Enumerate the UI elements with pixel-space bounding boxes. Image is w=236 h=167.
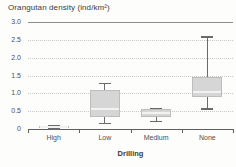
whisker-cap-high-none xyxy=(201,36,213,38)
category-label-medium: Medium xyxy=(131,134,181,142)
y-tick-label-2.5: 2.5 xyxy=(0,36,21,44)
whisker-cap-low-none xyxy=(201,108,213,110)
y-tick-label-2.0: 2.0 xyxy=(0,54,21,62)
gridline-2.5 xyxy=(28,40,233,41)
x-axis-tick xyxy=(131,129,132,133)
whisker-cap-low-low xyxy=(99,123,111,125)
gridline-top-3.0 xyxy=(28,22,233,23)
x-axis-title: Drilling xyxy=(28,149,233,158)
gridline-0.5 xyxy=(28,111,233,112)
box-low xyxy=(90,90,120,117)
x-axis-tick xyxy=(28,129,29,133)
y-tick-label-1.0: 1.0 xyxy=(0,89,21,97)
gridline-2.0 xyxy=(28,58,233,59)
y-tick-label-0.5: 0.5 xyxy=(0,107,21,115)
whisker-cap-low-medium xyxy=(150,121,162,123)
category-label-low: Low xyxy=(80,134,130,142)
category-label-none: None xyxy=(182,134,232,142)
median-line-none xyxy=(193,91,221,93)
y-tick-label-1.5: 1.5 xyxy=(0,72,21,80)
median-line-medium xyxy=(142,112,170,114)
whisker-cap-high-low xyxy=(99,83,111,85)
y-tick-label-3.0: 3.0 xyxy=(0,18,21,26)
chart-title: Orangutan density (ind/km²) xyxy=(8,3,110,13)
box-none xyxy=(192,77,222,97)
x-axis-tick xyxy=(79,129,80,133)
y-tick-label-0: 0 xyxy=(0,125,21,133)
boxplot-chart: Orangutan density (ind/km²) Drilling 00.… xyxy=(0,0,236,167)
x-axis-tick xyxy=(182,129,183,133)
median-line-low xyxy=(91,108,119,110)
whisker-line-none xyxy=(207,36,208,109)
median-line-high xyxy=(40,126,68,128)
category-label-high: High xyxy=(29,134,79,142)
x-axis-tick xyxy=(233,129,234,133)
